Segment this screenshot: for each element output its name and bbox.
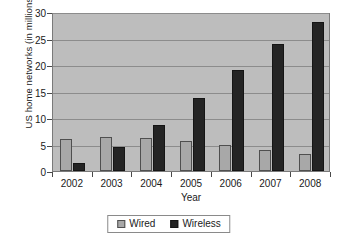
- x-tick-label-2008: 2008: [288, 178, 332, 189]
- bar-chart: US home networks (in millions) 051015202…: [0, 0, 338, 241]
- bars-layer: [53, 14, 329, 171]
- y-tick-label-15: 15: [14, 87, 46, 98]
- x-tick-mark-6: [290, 172, 291, 177]
- y-tick-label-30: 30: [14, 8, 46, 19]
- legend-item-wired: Wired: [117, 218, 155, 229]
- bar-wired-2006: [219, 145, 231, 171]
- bar-wired-2005: [180, 141, 192, 171]
- x-tick-mark-4: [211, 172, 212, 177]
- x-tick-mark-3: [171, 172, 172, 177]
- bar-wireless-2003: [113, 147, 125, 171]
- bar-wireless-2005: [193, 98, 205, 171]
- x-tick-mark-0: [52, 172, 53, 177]
- bar-wireless-2002: [73, 163, 85, 171]
- bar-wireless-2007: [272, 44, 284, 171]
- y-tick-label-10: 10: [14, 114, 46, 125]
- x-tick-mark-2: [131, 172, 132, 177]
- bar-wired-2002: [60, 139, 72, 171]
- y-tick-label-25: 25: [14, 34, 46, 45]
- x-tick-label-2004: 2004: [129, 178, 173, 189]
- x-axis-title: Year: [52, 192, 330, 203]
- x-tick-mark-7: [330, 172, 331, 177]
- x-tick-label-2005: 2005: [169, 178, 213, 189]
- bar-wired-2003: [100, 137, 112, 171]
- y-tick-label-0: 0: [14, 167, 46, 178]
- legend-label-wired: Wired: [129, 218, 155, 229]
- bar-wired-2008: [299, 154, 311, 171]
- y-tick-label-5: 5: [14, 140, 46, 151]
- y-tick-label-20: 20: [14, 61, 46, 72]
- x-tick-mark-5: [251, 172, 252, 177]
- x-tick-label-2003: 2003: [90, 178, 134, 189]
- bar-wired-2004: [140, 138, 152, 171]
- plot-area: [52, 13, 330, 172]
- x-tick-mark-1: [92, 172, 93, 177]
- x-tick-label-2007: 2007: [248, 178, 292, 189]
- legend-item-wireless: Wireless: [170, 218, 220, 229]
- legend-swatch-wired: [117, 220, 125, 228]
- legend-swatch-wireless: [170, 220, 178, 228]
- chart-legend: Wired Wireless: [107, 215, 230, 233]
- bar-wired-2007: [259, 150, 271, 171]
- legend-label-wireless: Wireless: [182, 218, 220, 229]
- bar-wireless-2008: [312, 22, 324, 171]
- x-tick-label-2006: 2006: [209, 178, 253, 189]
- bar-wireless-2006: [232, 70, 244, 171]
- x-tick-label-2002: 2002: [50, 178, 94, 189]
- bar-wireless-2004: [153, 125, 165, 171]
